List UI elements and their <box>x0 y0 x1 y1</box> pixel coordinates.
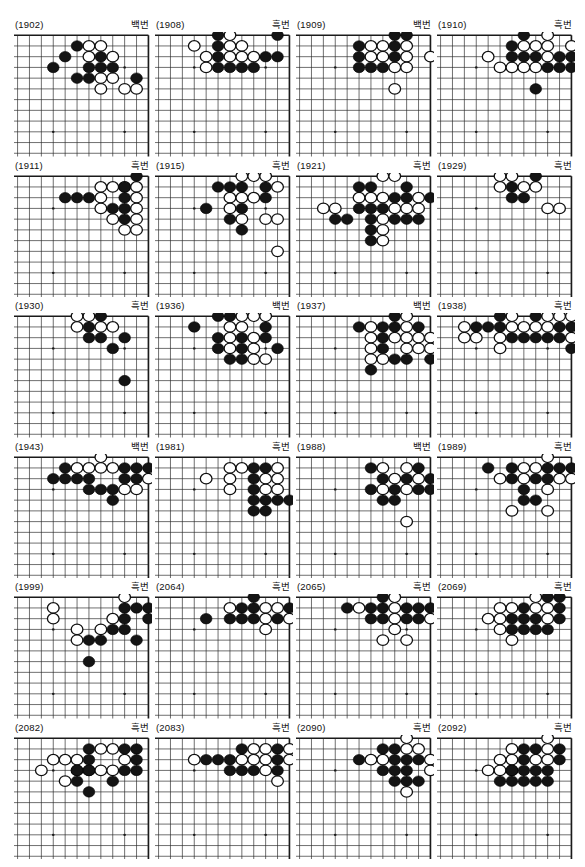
turn-label: 흑번 <box>554 159 572 172</box>
go-board <box>296 313 434 438</box>
problem-header: (1929)흑번 <box>437 159 575 173</box>
problem-number: (1999) <box>15 580 44 593</box>
board-canvas <box>296 313 434 438</box>
problem-p1938: (1938)흑번 <box>437 299 575 438</box>
board-canvas <box>155 454 293 579</box>
go-board <box>296 594 434 719</box>
go-board <box>296 454 434 579</box>
problem-number: (2092) <box>438 721 467 734</box>
turn-label: 흑번 <box>554 721 572 734</box>
problem-p2090: (2090)흑번 <box>296 721 434 860</box>
turn-label: 흑번 <box>554 18 572 31</box>
go-board <box>155 32 293 157</box>
go-board <box>14 454 152 579</box>
go-board <box>296 735 434 860</box>
problem-number: (1936) <box>156 299 185 312</box>
board-canvas <box>296 735 434 860</box>
go-board <box>437 735 575 860</box>
problem-p2082: (2082)흑번 <box>14 721 152 860</box>
problem-header: (1908)흑번 <box>155 18 293 32</box>
go-board <box>437 32 575 157</box>
turn-label: 흑번 <box>554 580 572 593</box>
turn-label: 흑번 <box>131 721 149 734</box>
problem-header: (1999)흑번 <box>14 580 152 594</box>
go-board <box>437 454 575 579</box>
go-board <box>296 32 434 157</box>
problem-header: (1921)흑번 <box>296 159 434 173</box>
turn-label: 백번 <box>272 299 290 312</box>
board-canvas <box>437 313 575 438</box>
turn-label: 백번 <box>413 18 431 31</box>
problem-p1911: (1911)흑번 <box>14 159 152 298</box>
problem-header: (2064)흑번 <box>155 580 293 594</box>
problem-header: (1910)흑번 <box>437 18 575 32</box>
turn-label: 흑번 <box>413 159 431 172</box>
go-board <box>14 32 152 157</box>
board-canvas <box>437 32 575 157</box>
problem-number: (2064) <box>156 580 185 593</box>
problem-p2065: (2065)흑번 <box>296 580 434 719</box>
board-canvas <box>296 454 434 579</box>
problem-header: (1943)백번 <box>14 440 152 454</box>
problem-header: (2083)흑번 <box>155 721 293 735</box>
board-canvas <box>296 173 434 298</box>
go-board <box>155 313 293 438</box>
problem-number: (1943) <box>15 440 44 453</box>
problem-header: (1915)흑번 <box>155 159 293 173</box>
board-canvas <box>14 594 152 719</box>
problem-number: (1902) <box>15 18 44 31</box>
board-canvas <box>14 313 152 438</box>
go-board <box>14 173 152 298</box>
problem-p2092: (2092)흑번 <box>437 721 575 860</box>
turn-label: 흑번 <box>272 721 290 734</box>
problem-header: (1988)백번 <box>296 440 434 454</box>
problem-header: (2065)흑번 <box>296 580 434 594</box>
turn-label: 흑번 <box>413 721 431 734</box>
problem-header: (2082)흑번 <box>14 721 152 735</box>
problem-number: (1915) <box>156 159 185 172</box>
problem-number: (2065) <box>297 580 326 593</box>
board-canvas <box>296 32 434 157</box>
problem-p2083: (2083)흑번 <box>155 721 293 860</box>
board-canvas <box>14 32 152 157</box>
problem-header: (1902)백번 <box>14 18 152 32</box>
problem-p1989: (1989)흑번 <box>437 440 575 579</box>
turn-label: 흑번 <box>554 299 572 312</box>
problem-header: (1909)백번 <box>296 18 434 32</box>
problem-number: (1908) <box>156 18 185 31</box>
problem-p1937: (1937)백번 <box>296 299 434 438</box>
board-canvas <box>155 313 293 438</box>
board-canvas <box>155 173 293 298</box>
problem-header: (2069)흑번 <box>437 580 575 594</box>
problem-number: (1938) <box>438 299 467 312</box>
problem-number: (1981) <box>156 440 185 453</box>
problem-p1943: (1943)백번 <box>14 440 152 579</box>
turn-label: 흑번 <box>272 580 290 593</box>
go-board <box>296 173 434 298</box>
turn-label: 흑번 <box>272 159 290 172</box>
board-canvas <box>155 32 293 157</box>
problem-p1915: (1915)흑번 <box>155 159 293 298</box>
problem-p1929: (1929)흑번 <box>437 159 575 298</box>
problem-header: (1981)흑번 <box>155 440 293 454</box>
problem-header: (1930)흑번 <box>14 299 152 313</box>
turn-label: 백번 <box>131 440 149 453</box>
problem-header: (1936)백번 <box>155 299 293 313</box>
problem-number: (2069) <box>438 580 467 593</box>
problem-number: (1921) <box>297 159 326 172</box>
go-board <box>155 454 293 579</box>
board-canvas <box>14 735 152 860</box>
problem-number: (1909) <box>297 18 326 31</box>
go-board <box>155 173 293 298</box>
go-board <box>14 594 152 719</box>
problem-p1988: (1988)백번 <box>296 440 434 579</box>
problem-number: (2082) <box>15 721 44 734</box>
board-canvas <box>155 735 293 860</box>
turn-label: 흑번 <box>554 440 572 453</box>
board-canvas <box>14 454 152 579</box>
problem-header: (1938)흑번 <box>437 299 575 313</box>
problem-p1908: (1908)흑번 <box>155 18 293 157</box>
problem-header: (1989)흑번 <box>437 440 575 454</box>
board-canvas <box>296 594 434 719</box>
turn-label: 백번 <box>413 299 431 312</box>
